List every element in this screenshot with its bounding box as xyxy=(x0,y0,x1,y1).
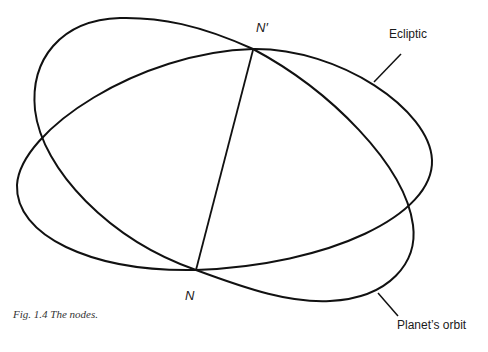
orbit-leader-line xyxy=(378,293,398,316)
figure-caption: Fig. 1.4 The nodes. xyxy=(13,308,98,320)
planet-orbit-label: Planet’s orbit xyxy=(397,318,466,332)
ecliptic-label: Ecliptic xyxy=(389,27,427,41)
ascending-node-label: N xyxy=(185,288,194,303)
descending-node-label: N′ xyxy=(256,20,268,35)
nodes-diagram xyxy=(0,0,488,352)
line-of-nodes xyxy=(196,50,253,270)
ecliptic-leader-line xyxy=(374,54,401,82)
